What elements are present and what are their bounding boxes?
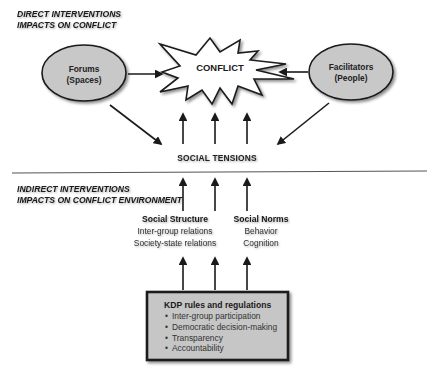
environment-to-tensions-arrows — [183, 179, 247, 211]
social-structure-item: Inter-group relations — [138, 226, 213, 236]
kdp-rules-box: KDP rules and regulations • Inter-group … — [147, 292, 288, 360]
kdp-list-item: Democratic decision-making — [172, 322, 278, 332]
tensions-to-conflict-arrows — [183, 114, 247, 144]
bullet-icon: • — [165, 311, 168, 321]
facilitators-to-tensions-arrow — [278, 103, 329, 144]
kdp-list-item: Accountability — [172, 343, 224, 353]
forums-sublabel: (Spaces) — [67, 75, 102, 85]
social-norms-item: Behavior — [244, 226, 277, 236]
social-tensions-label: SOCIAL TENSIONS — [177, 153, 257, 163]
indirect-title-line1: INDIRECT INTERVENTIONS — [17, 184, 130, 194]
direct-interventions-title: DIRECT INTERVENTIONS IMPACTS ON CONFLICT — [17, 9, 121, 30]
social-structure-item: Society-state relations — [134, 238, 216, 248]
forums-node: Forums (Spaces) — [42, 45, 126, 101]
forums-label: Forums — [69, 64, 100, 74]
kdp-title: KDP rules and regulations — [164, 300, 272, 310]
bullet-icon: • — [165, 343, 168, 353]
facilitators-node: Facilitators (People) — [309, 44, 393, 100]
social-norms-heading: Social Norms — [234, 214, 289, 224]
facilitators-label: Facilitators — [329, 62, 374, 72]
social-norms-item: Cognition — [243, 238, 279, 248]
bullet-icon: • — [165, 333, 168, 343]
social-structure-heading: Social Structure — [142, 214, 208, 224]
social-structure-block: Social Structure Inter-group relations S… — [134, 214, 216, 248]
forums-to-tensions-arrow — [110, 105, 161, 144]
indirect-title-line2: IMPACTS ON CONFLICT ENVIRONMENT — [17, 195, 183, 205]
kdp-list-item: Inter-group participation — [172, 311, 261, 321]
section-divider — [12, 171, 427, 173]
direct-title-line1: DIRECT INTERVENTIONS — [17, 9, 121, 19]
kdp-conflict-diagram: DIRECT INTERVENTIONS IMPACTS ON CONFLICT… — [0, 0, 435, 373]
conflict-label: CONFLICT — [196, 62, 244, 73]
kdp-to-environment-arrows — [183, 258, 247, 290]
facilitators-sublabel: (People) — [334, 73, 367, 83]
indirect-interventions-title: INDIRECT INTERVENTIONS IMPACTS ON CONFLI… — [17, 184, 183, 205]
bullet-icon: • — [165, 322, 168, 332]
social-norms-block: Social Norms Behavior Cognition — [234, 214, 289, 248]
facilitators-ellipse — [309, 44, 393, 100]
direct-title-line2: IMPACTS ON CONFLICT — [17, 20, 117, 30]
kdp-list-item: Transparency — [172, 333, 224, 343]
conflict-node: CONFLICT — [160, 38, 294, 104]
